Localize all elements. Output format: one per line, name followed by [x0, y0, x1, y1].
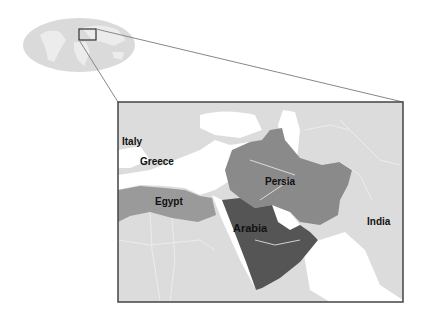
detail-map: Italy Greece Egypt Persia Arabia India — [118, 102, 403, 302]
label-persia: Persia — [265, 176, 295, 187]
label-arabia: Arabia — [233, 222, 268, 234]
world-globe — [23, 18, 135, 72]
label-italy: Italy — [122, 136, 142, 147]
map-figure: Italy Greece Egypt Persia Arabia India — [0, 0, 425, 320]
label-india: India — [367, 216, 391, 227]
callout-line-top — [96, 29, 403, 102]
label-greece: Greece — [140, 156, 174, 167]
label-egypt: Egypt — [155, 196, 183, 207]
